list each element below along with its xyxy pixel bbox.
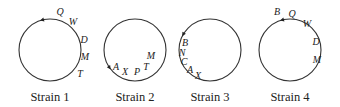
- gene-label: W: [69, 16, 79, 27]
- strain-2-map: AXPTMStrain 2: [104, 19, 166, 104]
- strain-caption: Strain 1: [30, 90, 69, 104]
- gene-label: P: [133, 66, 140, 77]
- strain-4-map: BQWDMStrain 4: [259, 6, 322, 104]
- strain-caption: Strain 4: [270, 90, 310, 104]
- gene-map-diagram: QWDMTStrain 1AXPTMStrain 2BNCAXStrain 3B…: [0, 0, 340, 107]
- strain-caption: Strain 3: [190, 90, 229, 104]
- strain-3-map: BNCAXStrain 3: [178, 19, 241, 104]
- gene-label: T: [143, 61, 150, 72]
- chromosome-circle: [19, 19, 81, 81]
- strain-1-map: QWDMTStrain 1: [19, 6, 90, 104]
- gene-label: B: [274, 6, 280, 17]
- gene-label: Q: [56, 6, 64, 17]
- chromosome-circle: [259, 19, 321, 81]
- gene-label: M: [80, 51, 90, 62]
- gene-label: D: [79, 34, 88, 45]
- strain-caption: Strain 2: [115, 90, 154, 104]
- gene-label: A: [186, 64, 194, 75]
- gene-label: X: [121, 66, 129, 77]
- gene-label: X: [194, 70, 202, 81]
- gene-label: T: [77, 68, 84, 79]
- gene-label: M: [146, 50, 156, 61]
- gene-label: D: [311, 36, 320, 47]
- gene-label: Q: [288, 8, 296, 19]
- gene-label: M: [312, 54, 322, 65]
- gene-label: A: [112, 61, 120, 72]
